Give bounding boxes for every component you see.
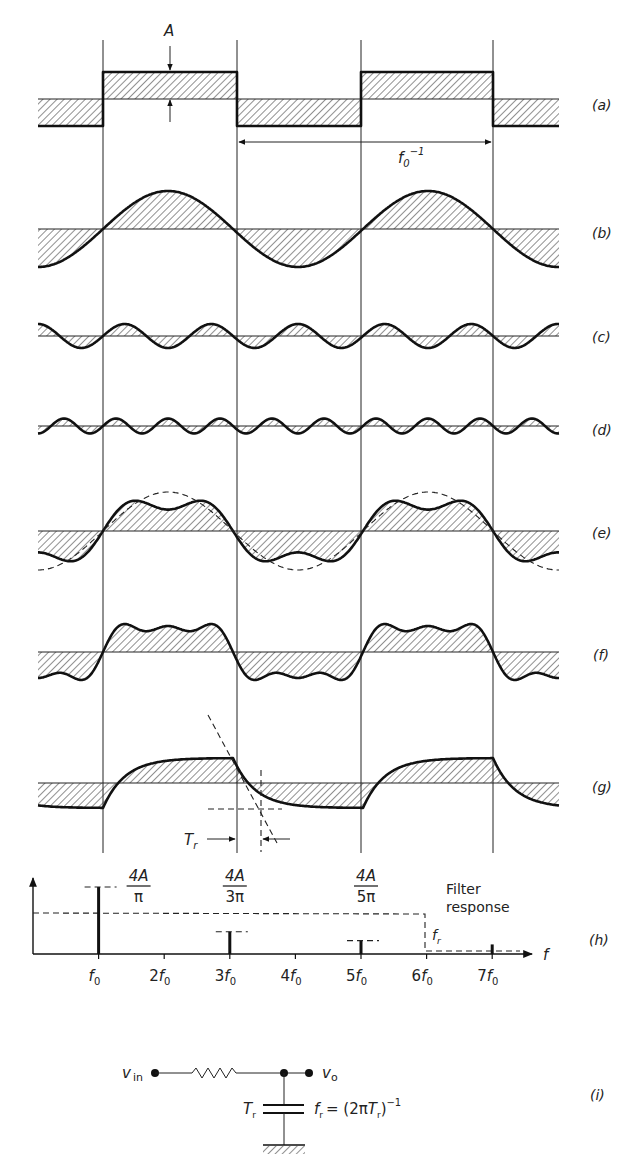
amplitude-label: A <box>163 22 174 40</box>
amplitude-numerator-5f0: 4A <box>356 867 376 885</box>
output-label: vo <box>322 1064 338 1084</box>
period-reference-lines <box>103 40 493 853</box>
panel-label-h: (h) <box>589 932 609 948</box>
tick-label-2f0: 2f0 <box>149 967 170 987</box>
frequency-ticks: f02f03f04f05f06f07f0 <box>89 954 499 987</box>
rise-time-label: Tr <box>184 831 198 851</box>
ground-hatch-icon <box>263 1146 305 1154</box>
amplitude-denominator-f0: π <box>134 888 143 906</box>
panel-label-a: (a) <box>592 97 612 113</box>
filter-response-curve <box>33 913 520 951</box>
amplitude-denominator-5f0: 5π <box>357 888 376 906</box>
tick-label-f0: f0 <box>89 967 101 987</box>
panel-label-i: (i) <box>590 1087 605 1103</box>
cutoff-formula: fr= (2πTr)−1 <box>314 1097 401 1120</box>
amplitude-denominator-3f0: 3π <box>226 888 245 906</box>
cutoff-label: fr <box>432 927 442 946</box>
period-annotation: f0−1 <box>239 142 491 169</box>
panel-label-d: (d) <box>592 422 612 438</box>
panel-label-b: (b) <box>592 225 612 241</box>
panel-labels: (a) (b) (c) (d) (e) (f) (g) (h) (i) <box>589 97 612 1103</box>
tick-label-7f0: 7f0 <box>477 967 498 987</box>
panel-label-c: (c) <box>592 329 611 345</box>
panel-label-f: (f) <box>593 647 609 663</box>
amplitude-numerator-f0: 4A <box>129 867 149 885</box>
panel-label-g: (g) <box>592 779 612 795</box>
tick-label-4f0: 4f0 <box>280 967 301 987</box>
amplitude-numerator-3f0: 4A <box>225 867 245 885</box>
output-terminal <box>305 1069 313 1077</box>
period-label: f0−1 <box>398 146 424 169</box>
input-label: vin <box>122 1064 143 1084</box>
filter-label-line2: response <box>446 899 510 915</box>
waveforms <box>38 72 559 808</box>
tick-label-3f0: 3f0 <box>215 967 236 987</box>
tick-label-6f0: 6f0 <box>412 967 433 987</box>
frequency-axis-label: f <box>543 946 551 964</box>
capacitor-label: Tr <box>243 1100 256 1120</box>
square-wave-fourier-figure: A f0−1 Tr f Filter response fr 4Aπ4A3π4A… <box>0 0 642 1170</box>
filter-label-line1: Filter <box>446 881 481 897</box>
panel-label-e: (e) <box>592 525 612 541</box>
rc-filter-circuit: vin vo Tr fr= (2πTr)−1 <box>122 1064 401 1154</box>
tick-label-5f0: 5f0 <box>346 967 367 987</box>
spectrum-plot: f Filter response fr 4Aπ4A3π4A5π f02f03f… <box>33 867 551 987</box>
